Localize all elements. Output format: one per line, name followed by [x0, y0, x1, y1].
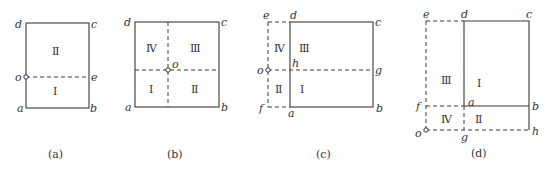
origin-marker — [424, 128, 428, 132]
panel-b: d c o a b Ⅳ Ⅲ Ⅰ Ⅱ (b) — [124, 16, 228, 161]
label-e: e — [423, 8, 430, 21]
label-g: g — [461, 131, 468, 144]
label-c: c — [221, 16, 227, 29]
label-d: d — [461, 8, 468, 21]
figure-canvas: d c o e a b Ⅱ Ⅰ (a) d c o a b Ⅳ Ⅲ Ⅰ Ⅱ (b… — [0, 0, 553, 171]
label-b: b — [376, 102, 383, 115]
region-I: Ⅰ — [477, 77, 481, 90]
region-IV: Ⅳ — [274, 42, 286, 55]
label-e: e — [91, 71, 98, 84]
caption-d: (d) — [471, 147, 487, 160]
label-c: c — [526, 8, 532, 21]
label-h: h — [292, 57, 299, 70]
region-I: Ⅰ — [149, 83, 153, 96]
panel-d: e d c f a b o g h Ⅲ Ⅰ Ⅳ Ⅱ (d) — [415, 8, 539, 160]
label-a: a — [125, 101, 132, 114]
solid-outline-adcb — [464, 21, 529, 106]
origin-marker — [266, 68, 270, 72]
region-III: Ⅲ — [299, 42, 310, 55]
label-d: d — [124, 16, 131, 29]
region-IV: Ⅳ — [146, 42, 158, 55]
label-h: h — [532, 125, 539, 138]
region-II: Ⅱ — [52, 45, 59, 58]
caption-a: (a) — [48, 148, 63, 161]
label-o: o — [172, 58, 179, 71]
caption-c: (c) — [316, 148, 331, 161]
region-II: Ⅱ — [191, 83, 198, 96]
label-g: g — [375, 64, 382, 77]
label-d: d — [290, 9, 297, 22]
origin-marker — [166, 68, 170, 72]
label-f: f — [415, 100, 422, 113]
origin-marker — [24, 75, 28, 79]
label-b: b — [221, 101, 228, 114]
region-I: Ⅰ — [53, 85, 57, 98]
label-a: a — [17, 102, 24, 115]
panel-a: d c o e a b Ⅱ Ⅰ (a) — [15, 18, 98, 161]
region-III: Ⅲ — [190, 42, 201, 55]
label-e: e — [263, 9, 270, 22]
label-c: c — [91, 18, 97, 31]
label-o: o — [15, 71, 22, 84]
caption-b: (b) — [167, 148, 183, 161]
label-o: o — [257, 64, 264, 77]
region-I: Ⅰ — [300, 83, 304, 96]
rectangle-abcd — [26, 23, 89, 108]
label-d: d — [15, 18, 22, 31]
region-IV: Ⅳ — [441, 113, 453, 126]
label-b: b — [532, 100, 539, 113]
panel-c: e d c o h g f a b Ⅳ Ⅲ Ⅱ Ⅰ (c) — [257, 9, 383, 161]
label-b: b — [90, 102, 97, 115]
label-a: a — [288, 107, 295, 120]
label-o: o — [415, 127, 422, 140]
label-a: a — [468, 96, 475, 109]
region-II: Ⅱ — [475, 113, 482, 126]
label-c: c — [375, 16, 381, 29]
region-II: Ⅱ — [275, 83, 282, 96]
label-f: f — [258, 102, 265, 115]
region-III: Ⅲ — [441, 74, 452, 87]
